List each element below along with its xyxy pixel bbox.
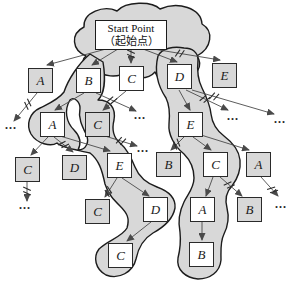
- state-node-b-17: B: [237, 197, 262, 222]
- state-node-label: C: [93, 205, 102, 218]
- state-node-label: C: [23, 163, 32, 176]
- state-node-a-0: A: [28, 68, 53, 93]
- continuation-ellipsis: ...: [5, 119, 17, 131]
- prune-slash: [27, 99, 31, 107]
- state-node-label: B: [85, 74, 93, 87]
- prune-slash: [267, 187, 275, 189]
- continuation-ellipsis: ...: [274, 113, 286, 125]
- prune-slash: [120, 139, 126, 145]
- prune-slash: [25, 102, 29, 110]
- beam-search-diagram: Start Point （起始点） A B C D E A C E C D E …: [0, 0, 296, 283]
- state-node-label: E: [187, 118, 195, 131]
- state-node-b-1: B: [76, 68, 101, 93]
- state-node-label: D: [151, 203, 160, 216]
- state-node-a-16: A: [190, 197, 215, 222]
- continuation-ellipsis: ...: [227, 110, 239, 122]
- state-node-d-15: D: [143, 197, 168, 222]
- state-node-e-4: E: [212, 63, 237, 88]
- state-node-c-6: C: [85, 112, 110, 137]
- state-node-label: A: [49, 118, 57, 131]
- state-node-label: D: [175, 70, 184, 83]
- state-node-c-18: C: [108, 243, 133, 268]
- state-node-label: C: [127, 72, 136, 85]
- prune-slash: [213, 94, 219, 100]
- state-node-label: E: [116, 159, 124, 172]
- prune-slash: [107, 97, 113, 102]
- prune-slash: [270, 190, 278, 192]
- state-node-d-9: D: [62, 155, 87, 180]
- start-point-node: Start Point （起始点）: [95, 20, 167, 50]
- state-node-e-10: E: [107, 153, 132, 178]
- continuation-ellipsis: ...: [19, 199, 31, 211]
- state-node-label: B: [198, 248, 206, 261]
- state-node-b-19: B: [189, 242, 214, 267]
- prune-slash: [209, 93, 215, 99]
- state-node-e-7: E: [178, 112, 203, 137]
- start-point-label-en: Start Point: [96, 22, 166, 35]
- edge-arrow: [261, 177, 278, 196]
- state-node-c-14: C: [85, 199, 110, 224]
- state-node-a-13: A: [246, 152, 271, 177]
- continuation-ellipsis: ...: [275, 198, 287, 210]
- start-point-label-zh: （起始点）: [96, 35, 166, 48]
- state-node-label: A: [199, 203, 207, 216]
- state-node-label: C: [93, 118, 102, 131]
- state-node-c-8: C: [15, 157, 40, 182]
- state-node-label: E: [221, 69, 229, 82]
- state-node-label: B: [165, 158, 173, 171]
- state-node-a-5: A: [40, 112, 65, 137]
- state-node-label: D: [70, 161, 79, 174]
- state-node-label: C: [211, 158, 220, 171]
- continuation-ellipsis: ...: [134, 109, 146, 121]
- state-node-c-12: C: [203, 152, 228, 177]
- state-node-d-3: D: [167, 64, 192, 89]
- state-node-b-11: B: [156, 152, 181, 177]
- state-node-label: A: [255, 158, 263, 171]
- prune-slash: [111, 98, 117, 103]
- state-node-label: A: [37, 74, 45, 87]
- state-node-label: B: [246, 203, 254, 216]
- state-node-label: C: [116, 249, 125, 262]
- state-node-c-2: C: [119, 66, 144, 91]
- continuation-ellipsis: ...: [137, 142, 149, 154]
